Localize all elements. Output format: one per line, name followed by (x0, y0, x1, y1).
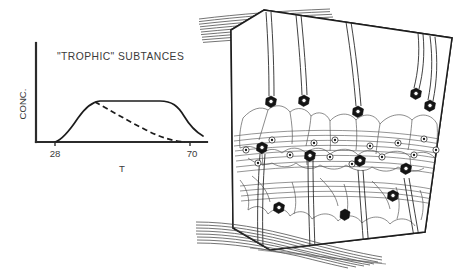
chart-title: "TROPHIC" SUBTANCES (57, 51, 184, 62)
small-soma (287, 152, 293, 158)
small-soma (255, 160, 261, 166)
small-soma (433, 147, 439, 153)
y-axis-label: CONC. (17, 89, 28, 120)
small-soma (327, 154, 333, 160)
x-tick-label-left: 28 (50, 148, 61, 159)
dashed-decline-curve (95, 102, 185, 142)
small-soma (421, 136, 427, 142)
small-soma (411, 152, 417, 158)
slab-bottom-fibers (250, 248, 386, 264)
small-soma (243, 147, 249, 153)
small-soma (269, 137, 275, 143)
cortical-slab-illustration (196, 9, 452, 268)
figure-canvas: "TROPHIC" SUBTANCES CONC. 28 70 T (0, 0, 475, 275)
small-soma (379, 154, 385, 160)
small-soma (332, 137, 338, 143)
x-axis-label: T (119, 163, 125, 174)
small-soma (349, 161, 355, 167)
small-soma (367, 143, 373, 149)
small-soma (395, 140, 401, 146)
x-tick-label-right: 70 (187, 148, 198, 159)
concentration-chart: "TROPHIC" SUBTANCES CONC. 28 70 T (17, 43, 207, 174)
small-soma (311, 140, 317, 146)
